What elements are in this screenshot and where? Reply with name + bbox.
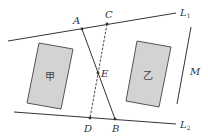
label-d: D bbox=[83, 123, 92, 134]
line-m bbox=[177, 27, 191, 104]
label-e: E bbox=[100, 68, 109, 79]
label-m: M bbox=[189, 66, 201, 77]
label-a: A bbox=[72, 15, 80, 26]
label-l2: L2 bbox=[179, 119, 191, 131]
label-b: B bbox=[111, 123, 119, 134]
line-l1 bbox=[8, 13, 176, 41]
label-jia: 甲 bbox=[45, 71, 55, 82]
label-l1: L1 bbox=[179, 7, 190, 19]
geometry-diagram: A C E D B L1 L2 M 甲 乙 bbox=[0, 0, 208, 139]
point-d bbox=[89, 117, 92, 120]
point-c bbox=[106, 23, 109, 26]
point-b bbox=[114, 118, 117, 121]
point-e bbox=[97, 72, 100, 75]
label-c: C bbox=[105, 9, 113, 20]
label-yi: 乙 bbox=[143, 70, 153, 81]
line-l2 bbox=[14, 112, 176, 124]
point-a bbox=[81, 28, 84, 31]
